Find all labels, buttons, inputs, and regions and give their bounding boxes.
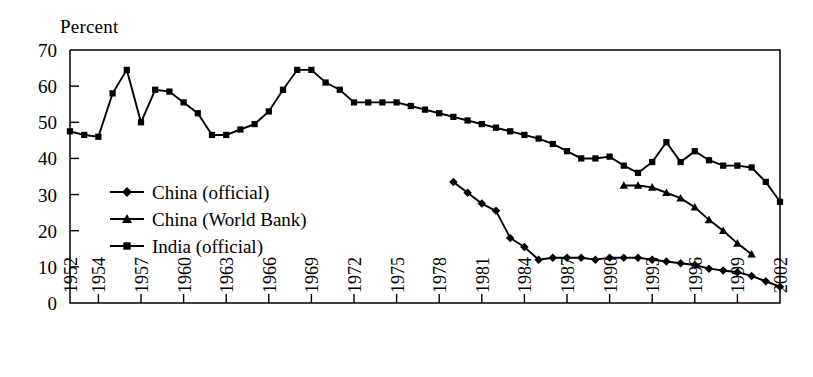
data-point-square-icon <box>294 67 300 73</box>
x-axis-label: 1996 <box>686 257 706 293</box>
data-point-square-icon <box>621 163 627 169</box>
chart-plot: 0102030405060701952195419571960196319661… <box>0 0 813 377</box>
data-point-square-icon <box>635 170 641 176</box>
data-point-square-icon <box>379 99 385 105</box>
x-axis-label: 1981 <box>473 257 493 293</box>
data-point-square-icon <box>152 87 158 93</box>
x-axis-label: 1954 <box>89 257 109 293</box>
y-axis-label: 60 <box>38 76 57 97</box>
data-point-square-icon <box>95 134 101 140</box>
data-point-diamond-icon <box>634 254 643 263</box>
x-axis-label: 1987 <box>558 257 578 293</box>
data-point-square-icon <box>507 128 513 134</box>
legend-label: India (official) <box>152 236 263 258</box>
data-point-square-icon <box>351 99 357 105</box>
data-point-square-icon <box>592 155 598 161</box>
legend-entry: India (official) <box>110 236 263 258</box>
legend-label: China (official) <box>152 182 269 204</box>
series-triangle <box>620 181 756 257</box>
data-point-square-icon <box>408 103 414 109</box>
data-point-square-icon <box>237 126 243 132</box>
data-point-square-icon <box>393 99 399 105</box>
data-point-diamond-icon <box>676 259 685 268</box>
data-point-square-icon <box>337 87 343 93</box>
x-axis-label: 1963 <box>217 257 237 293</box>
data-point-square-icon <box>109 90 115 96</box>
legend-entry: China (World Bank) <box>110 209 307 231</box>
x-axis-label: 1969 <box>302 257 322 293</box>
data-point-square-icon <box>124 67 130 73</box>
y-axis-label: 0 <box>48 293 58 314</box>
data-point-square-icon <box>535 135 541 141</box>
data-point-square-icon <box>692 148 698 154</box>
data-point-square-icon <box>663 139 669 145</box>
data-point-square-icon <box>166 88 172 94</box>
data-point-square-icon <box>578 155 584 161</box>
y-axis-label: 20 <box>38 221 57 242</box>
data-point-square-icon <box>606 153 612 159</box>
data-point-diamond-icon <box>620 254 629 263</box>
data-point-square-icon <box>450 114 456 120</box>
data-point-square-icon <box>493 125 499 131</box>
y-axis-label: 40 <box>38 148 57 169</box>
data-point-square-icon <box>209 132 215 138</box>
data-point-square-icon <box>365 99 371 105</box>
data-point-square-icon <box>479 121 485 127</box>
data-point-square-icon <box>138 119 144 125</box>
data-point-square-icon <box>464 117 470 123</box>
data-point-diamond-icon <box>719 266 728 275</box>
data-point-square-icon <box>720 163 726 169</box>
figure-container: Percent 01020304050607019521954195719601… <box>0 0 813 377</box>
data-point-square-icon <box>677 159 683 165</box>
data-point-diamond-icon <box>577 254 586 263</box>
data-point-square-icon <box>564 148 570 154</box>
x-axis-label: 1975 <box>388 257 408 293</box>
data-point-square-icon <box>422 107 428 113</box>
x-axis-label: 1960 <box>175 257 195 293</box>
data-point-diamond-icon <box>762 277 771 286</box>
data-point-square-icon <box>195 110 201 116</box>
x-axis-label: 1972 <box>345 257 365 293</box>
data-point-square-icon <box>649 159 655 165</box>
y-axis-label: 30 <box>38 185 57 206</box>
data-point-square-icon <box>734 163 740 169</box>
series-line <box>624 186 752 255</box>
data-point-square-icon <box>322 79 328 85</box>
x-axis-label: 1993 <box>643 257 663 293</box>
data-point-square-icon <box>521 132 527 138</box>
y-axis-label: 50 <box>38 112 57 133</box>
data-point-diamond-icon <box>662 257 671 266</box>
x-axis-label: 1952 <box>61 257 81 293</box>
legend-square-icon <box>123 242 130 249</box>
data-point-diamond-icon <box>747 272 756 281</box>
x-axis-label: 1984 <box>515 257 535 293</box>
x-axis-label: 1966 <box>260 257 280 293</box>
y-axis-label: 10 <box>38 257 57 278</box>
y-axis-label: 70 <box>38 40 57 61</box>
x-axis-label: 1990 <box>601 257 621 293</box>
x-axis-label: 1999 <box>728 257 748 293</box>
data-point-square-icon <box>223 132 229 138</box>
data-point-square-icon <box>266 108 272 114</box>
x-axis-label: 2002 <box>771 257 791 293</box>
legend-diamond-icon <box>122 187 132 197</box>
x-axis-label: 1978 <box>430 257 450 293</box>
data-point-square-icon <box>308 67 314 73</box>
data-point-square-icon <box>81 132 87 138</box>
data-point-triangle-icon <box>691 203 700 211</box>
x-axis-label: 1957 <box>132 257 152 293</box>
data-point-square-icon <box>706 157 712 163</box>
data-point-diamond-icon <box>549 254 558 263</box>
data-point-square-icon <box>180 99 186 105</box>
legend-label: China (World Bank) <box>152 209 307 231</box>
data-point-diamond-icon <box>705 264 714 273</box>
data-point-square-icon <box>280 87 286 93</box>
data-point-diamond-icon <box>591 255 600 264</box>
data-point-square-icon <box>550 141 556 147</box>
data-point-square-icon <box>251 121 257 127</box>
data-point-diamond-icon <box>492 207 501 216</box>
data-point-square-icon <box>748 164 754 170</box>
data-point-square-icon <box>763 179 769 185</box>
data-point-square-icon <box>436 110 442 116</box>
legend-entry: China (official) <box>110 182 269 204</box>
